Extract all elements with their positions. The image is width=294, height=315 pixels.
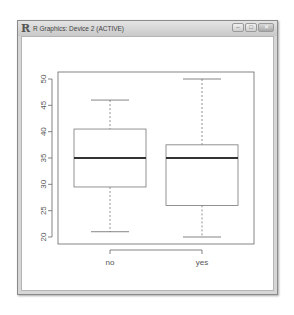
r-graphics-window: R R Graphics: Device 2 (ACTIVE) – □ ✕ 20… — [17, 20, 278, 295]
y-tick-label: 50 — [39, 74, 48, 83]
window-controls: – □ ✕ — [232, 23, 274, 32]
r-logo-icon: R — [21, 23, 31, 34]
title-bar[interactable]: R R Graphics: Device 2 (ACTIVE) – □ ✕ — [18, 21, 277, 36]
maximize-button[interactable]: □ — [245, 23, 257, 32]
y-tick-label: 45 — [39, 100, 48, 109]
y-tick-label: 20 — [39, 232, 48, 241]
y-tick-label: 35 — [39, 153, 48, 162]
x-tick-label: yes — [196, 258, 208, 267]
y-tick-label: 40 — [39, 127, 48, 136]
plot-area: 20253035404550noyes — [21, 36, 274, 291]
y-tick-label: 30 — [39, 179, 48, 188]
window-title: R Graphics: Device 2 (ACTIVE) — [33, 23, 124, 34]
minimize-button[interactable]: – — [232, 23, 244, 32]
iqr-box — [166, 145, 238, 206]
x-tick-label: no — [106, 258, 115, 267]
boxplot-chart: 20253035404550noyes — [22, 37, 275, 292]
y-tick-label: 25 — [39, 206, 48, 215]
close-button[interactable]: ✕ — [258, 23, 274, 32]
